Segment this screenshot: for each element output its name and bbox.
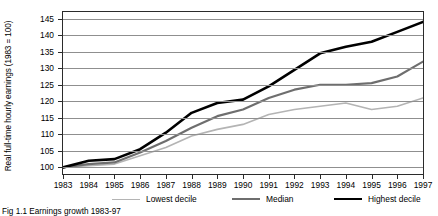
y-tick-label: 120 [28,97,54,105]
x-tick-mark [114,175,115,179]
x-tick-mark [166,175,167,179]
x-tick-mark [397,175,398,179]
legend-item: Lowest decile [112,193,197,205]
gridline [63,167,423,168]
series-line [63,22,423,167]
x-tick-mark [320,175,321,179]
plot-area [62,11,424,175]
y-tick-label: 130 [28,64,54,72]
gridline [63,151,423,152]
y-tick-label: 110 [28,130,54,138]
gridline [63,85,423,86]
legend-item: Highest decile [334,193,421,205]
x-tick-mark [269,175,270,179]
legend-item: Median [232,193,293,205]
legend-label: Highest decile [368,194,421,204]
x-tick-label: 1997 [403,180,438,190]
y-tick-label: 115 [28,114,54,122]
y-tick-label: 135 [28,48,54,56]
y-tick-label: 145 [28,15,54,23]
chart-legend: Lowest decileMedianHighest decile [62,193,424,205]
y-axis-title: Real full-time hourly earnings (1983 = 1… [2,6,16,186]
figure-caption: Fig 1.1 Earnings growth 1983-97 [2,207,121,216]
y-tick-label: 125 [28,81,54,89]
x-tick-mark [140,175,141,179]
gridline [63,19,423,20]
figure: Real full-time hourly earnings (1983 = 1… [0,0,438,216]
legend-swatch [334,198,362,200]
x-tick-mark [423,175,424,179]
x-tick-mark [372,175,373,179]
y-tick-label: 100 [28,163,54,171]
gridline [63,68,423,69]
legend-label: Lowest decile [146,194,197,204]
x-tick-mark [89,175,90,179]
x-tick-mark [346,175,347,179]
y-tick-label: 140 [28,31,54,39]
y-tick-label: 105 [28,147,54,155]
x-tick-mark [294,175,295,179]
gridline [63,35,423,36]
gridline [63,118,423,119]
gridline [63,134,423,135]
x-tick-mark [217,175,218,179]
gridline [63,101,423,102]
gridline [63,52,423,53]
x-tick-mark [243,175,244,179]
legend-swatch [232,198,260,200]
x-axis-labels: 1983198419851986198719881989199019911992… [0,180,438,192]
legend-swatch [112,199,140,200]
legend-label: Median [266,194,293,204]
x-tick-mark [192,175,193,179]
x-tick-mark [63,175,64,179]
plot-inner [63,12,423,174]
series-lines [63,12,423,174]
